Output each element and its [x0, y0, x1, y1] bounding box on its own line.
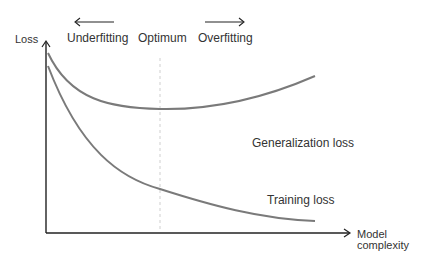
generalization-loss-curve: [48, 53, 315, 109]
x-axis-label-line2: complexity: [357, 240, 409, 251]
training-loss-label: Training loss: [267, 194, 335, 206]
overfitting-label: Overfitting: [198, 32, 253, 44]
y-axis-label: Loss: [15, 34, 38, 45]
generalization-loss-label: Generalization loss: [252, 137, 354, 149]
optimum-label: Optimum: [138, 32, 187, 44]
underfitting-label: Underfitting: [67, 32, 128, 44]
